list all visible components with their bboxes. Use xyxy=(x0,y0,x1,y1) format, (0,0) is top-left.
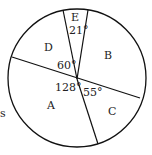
sector-label-b: B xyxy=(104,50,112,61)
angle-label-a: 128° xyxy=(55,82,82,93)
angle-label-c: 55° xyxy=(83,87,103,98)
sector-label-d: D xyxy=(44,42,53,53)
sector-label-c: C xyxy=(108,106,116,117)
sector-label-a: A xyxy=(47,100,55,111)
edge-text: s xyxy=(0,108,6,119)
angle-label-d: 60° xyxy=(57,60,77,71)
sector-label-e: E xyxy=(71,12,79,23)
angle-label-e: 21° xyxy=(69,25,89,36)
